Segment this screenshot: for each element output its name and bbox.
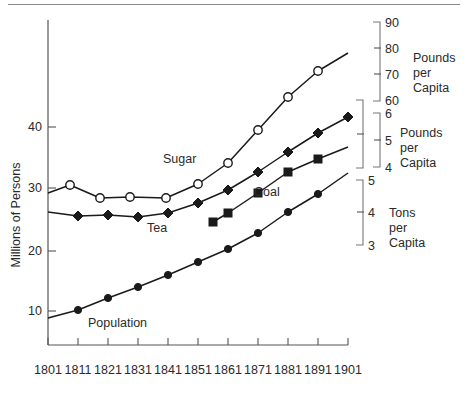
series-sugar-line [48,53,348,198]
series-tea-point [103,210,113,220]
series-sugar: Sugar [48,53,348,202]
series-sugar-label: Sugar [163,152,196,166]
series-tea-point [313,128,323,138]
tea-axis-title-line3: Capita [400,156,436,170]
multi-axis-line-chart: 40 30 20 10 Millions of Persons 1801 181… [0,0,468,402]
series-population-point [314,190,321,197]
tea-axis-tick-label-4: 4 [385,161,392,175]
left-axis-tick-label-10: 10 [28,304,42,318]
tea-axis: 6 5 4 Pounds per Capita [356,100,442,175]
x-axis-tick-label-1811: 1811 [65,363,92,377]
x-axis-tick-label-1871: 1871 [244,363,272,377]
x-axis: 1801 1811 1821 1831 1841 1851 1861 1871 … [34,338,362,377]
series-coal-point [284,168,292,176]
series-sugar-point [66,181,74,189]
series-population-point [74,306,81,313]
sugar-axis-bracket [373,22,380,101]
coal-axis-tick-label-3: 3 [368,239,375,253]
series-population-point [284,208,291,215]
tea-axis-title-line1: Pounds [400,126,442,140]
series-population-point [104,294,111,301]
x-axis-tick-label-1821: 1821 [94,363,122,377]
x-axis-tick-label-1841: 1841 [154,363,182,377]
series-tea-point [343,112,353,122]
series-population-point [254,229,261,236]
coal-axis-tick-label-5: 5 [368,174,375,188]
left-axis-title: Millions of Persons [9,163,23,268]
left-axis-tick-label-40: 40 [28,120,42,134]
series-population-point [164,271,171,278]
series-coal-label: Coal [254,185,280,199]
coal-axis: 5 4 3 Tons per Capita [356,174,425,253]
x-axis-tick-label-1861: 1861 [214,363,242,377]
series-coal-point [314,155,322,163]
sugar-axis-tick-label-90: 90 [385,16,399,30]
sugar-axis-title-line2: per [413,66,431,80]
series-sugar-point [126,193,134,201]
sugar-axis-title-line1: Pounds [413,51,455,65]
series-population-point [194,258,201,265]
series-coal-point [209,218,217,226]
series-population-point [134,283,141,290]
tea-axis-tick-label-6: 6 [385,107,392,121]
left-axis-tick-label-20: 20 [28,244,42,258]
series-tea-point [193,198,203,208]
series-population-point [224,245,231,252]
series-tea-point [163,208,173,218]
series-sugar-point [162,194,170,202]
coal-axis-title-line2: per [389,221,407,235]
coal-axis-title-line1: Tons [389,206,415,220]
series-sugar-point [254,126,262,134]
left-axis: 40 30 20 10 Millions of Persons [9,20,56,345]
tea-axis-title-line2: per [400,141,418,155]
series-sugar-point [284,93,292,101]
sugar-axis-tick-label-60: 60 [385,94,399,108]
series-tea-label: Tea [147,221,167,235]
sugar-axis-tick-label-70: 70 [385,68,399,82]
series-tea-point [253,167,263,177]
series-population: Population [48,173,348,330]
series-tea-point [73,211,83,221]
series-sugar-point [194,180,202,188]
x-axis-tick-label-1851: 1851 [184,363,212,377]
sugar-axis-tick-label-80: 80 [385,42,399,56]
series-tea-point [223,185,233,195]
chart-figure: 40 30 20 10 Millions of Persons 1801 181… [0,0,468,402]
series-population-label: Population [88,316,147,330]
series-coal-point [224,209,232,217]
series-tea: Tea [48,112,353,235]
series-sugar-point [224,159,232,167]
sugar-axis-title-line3: Capita [413,81,449,95]
x-axis-tick-label-1901: 1901 [334,363,362,377]
series-sugar-point [96,194,104,202]
x-axis-tick-label-1891: 1891 [304,363,332,377]
series-tea-point [133,212,143,222]
series-sugar-point [314,67,322,75]
left-axis-tick-label-30: 30 [28,181,42,195]
tea-axis-tick-label-5: 5 [385,134,392,148]
x-axis-tick-label-1881: 1881 [274,363,302,377]
sugar-axis: 90 80 70 60 Pounds per Capita [373,16,455,108]
series-tea-point [283,147,293,157]
coal-axis-title-line3: Capita [389,236,425,250]
x-axis-tick-label-1831: 1831 [124,363,152,377]
x-axis-tick-label-1801: 1801 [34,363,62,377]
coal-axis-tick-label-4: 4 [368,206,375,220]
